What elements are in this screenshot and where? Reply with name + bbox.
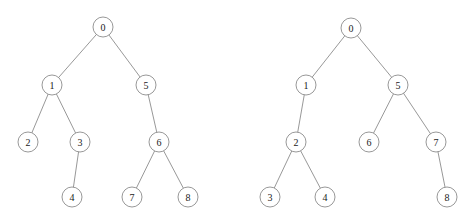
- left-tree-edges: [32, 35, 183, 189]
- tree-node-6[interactable]: 6: [359, 132, 379, 152]
- tree-edge: [73, 152, 78, 187]
- tree-edge: [312, 36, 345, 77]
- tree-edge: [298, 95, 305, 132]
- tree-node-3[interactable]: 3: [70, 132, 90, 152]
- node-label: 3: [268, 192, 273, 203]
- node-label: 5: [144, 80, 149, 91]
- tree-node-0[interactable]: 0: [93, 17, 113, 37]
- tree-node-8[interactable]: 8: [178, 187, 198, 207]
- tree-edge: [109, 35, 140, 77]
- tree-edge: [357, 36, 391, 78]
- tree-node-4[interactable]: 4: [62, 187, 82, 207]
- node-label: 8: [445, 192, 450, 203]
- tree-edge: [438, 152, 445, 187]
- tree-edge: [59, 35, 97, 78]
- tree-edge: [136, 151, 154, 188]
- tree-edge: [56, 94, 75, 133]
- tree-node-5[interactable]: 5: [388, 75, 408, 95]
- left-tree-nodes: 015236478: [18, 17, 198, 207]
- tree-node-1[interactable]: 1: [42, 75, 62, 95]
- node-label: 1: [304, 80, 309, 91]
- node-label: 6: [367, 137, 372, 148]
- tree-edge: [374, 94, 394, 133]
- node-label: 6: [157, 137, 162, 148]
- node-label: 7: [434, 137, 439, 148]
- tree-node-7[interactable]: 7: [122, 187, 142, 207]
- tree-edge: [404, 93, 431, 133]
- tree-node-8[interactable]: 8: [437, 187, 457, 207]
- tree-figure: 015236478015267348: [0, 0, 473, 223]
- node-label: 4: [70, 192, 75, 203]
- tree-edge: [148, 95, 157, 133]
- node-label: 5: [396, 80, 401, 91]
- tree-edge: [301, 151, 321, 188]
- tree-node-2[interactable]: 2: [286, 132, 306, 152]
- node-label: 2: [26, 137, 31, 148]
- node-label: 0: [101, 22, 106, 33]
- node-label: 7: [130, 192, 135, 203]
- tree-node-1[interactable]: 1: [296, 75, 316, 95]
- tree-node-7[interactable]: 7: [426, 132, 446, 152]
- node-label: 3: [78, 137, 83, 148]
- node-label: 8: [186, 192, 191, 203]
- node-label: 0: [349, 23, 354, 34]
- edges-layer: [32, 35, 445, 189]
- right-tree-edges: [274, 36, 445, 188]
- tree-diagram-canvas: 015236478015267348: [0, 0, 473, 223]
- tree-edge: [274, 151, 291, 188]
- right-tree-nodes: 015267348: [260, 18, 457, 207]
- tree-edge: [32, 94, 48, 133]
- tree-node-4[interactable]: 4: [315, 187, 335, 207]
- node-label: 2: [294, 137, 299, 148]
- tree-edge: [164, 151, 184, 188]
- tree-node-3[interactable]: 3: [260, 187, 280, 207]
- tree-node-6[interactable]: 6: [149, 132, 169, 152]
- node-label: 4: [323, 192, 328, 203]
- nodes-layer: 015236478015267348: [18, 17, 457, 207]
- tree-node-5[interactable]: 5: [136, 75, 156, 95]
- node-label: 1: [50, 80, 55, 91]
- tree-node-2[interactable]: 2: [18, 132, 38, 152]
- tree-node-0[interactable]: 0: [341, 18, 361, 38]
